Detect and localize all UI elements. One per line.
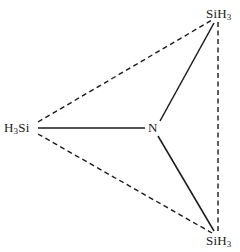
bond-n-to-si-bottom	[158, 136, 214, 231]
structure-bonds-svg	[0, 0, 240, 252]
molecular-structure-diagram: SiH3 H3Si SiH3 N	[0, 0, 240, 252]
atom-label-silyl-bottom-text: SiH	[206, 233, 227, 248]
atom-label-silyl-left-suffix: Si	[18, 120, 29, 135]
atom-label-silyl-top-subscript: 3	[227, 12, 232, 22]
atom-label-silyl-left-subscript: 3	[14, 126, 19, 136]
guide-line-si-left-to-si-top	[38, 20, 212, 122]
atom-label-silyl-left-prefix: H	[4, 120, 14, 135]
atom-label-silyl-bottom-subscript: 3	[227, 239, 232, 249]
bond-n-to-si-top	[160, 23, 214, 121]
atom-label-silyl-top: SiH3	[206, 7, 232, 20]
atom-label-silyl-left: H3Si	[4, 121, 30, 134]
atom-label-silyl-bottom: SiH3	[206, 234, 232, 247]
atom-label-nitrogen: N	[148, 121, 158, 134]
atom-label-silyl-top-text: SiH	[206, 6, 227, 21]
